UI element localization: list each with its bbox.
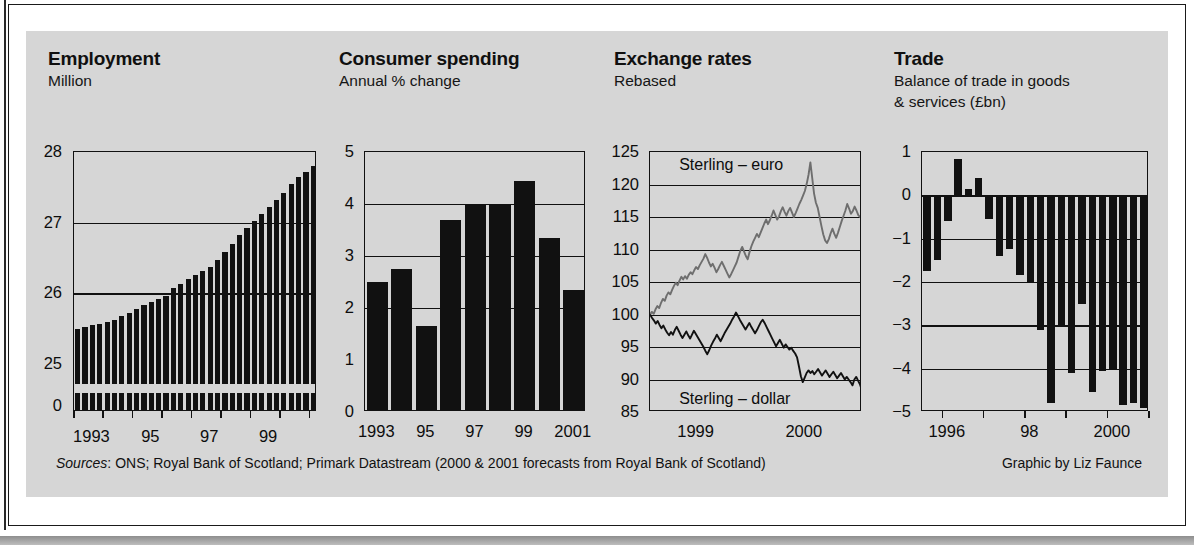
employment-x-tick xyxy=(191,411,193,418)
employment-x-tick xyxy=(309,411,311,418)
employment-x-tick xyxy=(132,411,134,418)
employment-x-tick xyxy=(102,411,104,418)
employment-x-tick xyxy=(161,411,163,418)
sources-label: Sources xyxy=(56,455,107,471)
trade-x-axis: 1996982000 xyxy=(881,31,1168,497)
trade-x-tick xyxy=(942,411,944,418)
trade-x-tick-label: 1996 xyxy=(928,423,965,440)
graphic-panel: Employment Million 282726250 1993959799 … xyxy=(26,31,1168,497)
footer: Sources: ONS; Royal Bank of Scotland; Pr… xyxy=(56,455,1142,471)
exchange-rates-x-tick-label: 2000 xyxy=(785,423,822,440)
employment-x-axis: 1993959799 xyxy=(26,31,326,497)
figure-page: Employment Million 282726250 1993959799 … xyxy=(0,0,1194,557)
consumer-spending-x-axis: 19939597992001 xyxy=(326,31,601,497)
trade-plot-area: 10−1−2−3−4−5 1996982000 xyxy=(881,31,1168,497)
employment-x-tick-label: 1993 xyxy=(73,428,110,445)
chart-consumer-spending: Consumer spending Annual % change 543210… xyxy=(326,31,601,497)
consumer-spending-x-tick-label: 1993 xyxy=(358,423,395,440)
trade-x-tick xyxy=(1065,411,1067,418)
employment-x-tick-label: 95 xyxy=(141,428,159,445)
graphic-credit: Graphic by Liz Faunce xyxy=(1002,455,1142,471)
trade-x-tick xyxy=(1148,411,1150,418)
sources-body: : ONS; Royal Bank of Scotland; Primark D… xyxy=(107,455,765,471)
chart-trade: Trade Balance of trade in goods & servic… xyxy=(881,31,1168,497)
exchange-rates-x-tick-label: 1999 xyxy=(677,423,714,440)
employment-x-tick-label: 97 xyxy=(200,428,218,445)
consumer-spending-x-tick-label: 95 xyxy=(416,423,434,440)
employment-x-tick-label: 99 xyxy=(259,428,277,445)
chart-exchange-rates: Exchange rates Rebased Sterling – euroSt… xyxy=(601,31,881,497)
employment-x-tick xyxy=(279,411,281,418)
trade-x-tick-label: 98 xyxy=(1020,423,1038,440)
trade-x-tick xyxy=(1024,411,1026,418)
exchange-rates-plot-area: Sterling – euroSterling – dollar 1251201… xyxy=(601,31,881,497)
sources-text: Sources: ONS; Royal Bank of Scotland; Pr… xyxy=(56,455,766,471)
left-rule xyxy=(4,0,6,530)
bottom-shadow-band xyxy=(0,536,1194,545)
employment-x-tick xyxy=(250,411,252,418)
exchange-rates-x-axis: 19992000 xyxy=(601,31,881,497)
consumer-spending-x-tick-label: 97 xyxy=(465,423,483,440)
trade-x-tick xyxy=(983,411,985,418)
employment-plot-area: 282726250 1993959799 xyxy=(26,31,326,497)
chart-employment: Employment Million 282726250 1993959799 xyxy=(26,31,326,497)
trade-x-tick xyxy=(1107,411,1109,418)
employment-x-tick xyxy=(220,411,222,418)
trade-x-tick-label: 2000 xyxy=(1094,423,1131,440)
employment-x-tick xyxy=(73,411,75,418)
consumer-spending-x-tick-label: 99 xyxy=(514,423,532,440)
consumer-spending-x-tick-label: 2001 xyxy=(554,423,591,440)
consumer-spending-plot-area: 543210 19939597992001 xyxy=(326,31,601,497)
